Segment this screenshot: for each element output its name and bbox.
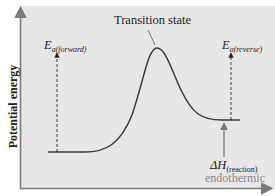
ea-forward-symbol: E (44, 38, 52, 52)
y-axis-label: Potential energy (6, 62, 21, 152)
delta-h-symbol: ΔH (210, 158, 226, 172)
ea-reverse-label: Ea(reverse) (222, 38, 262, 54)
transition-state-pointer (148, 30, 155, 45)
ea-reverse-symbol: E (222, 38, 230, 52)
ea-forward-subscript: a(forward) (52, 45, 87, 54)
ea-forward-label: Ea(forward) (44, 38, 86, 54)
energy-curve (48, 48, 240, 152)
ea-reverse-subscript: a(reverse) (230, 45, 263, 54)
reaction-type-label: endothermic (205, 171, 265, 186)
transition-state-label: Transition state (114, 13, 191, 28)
